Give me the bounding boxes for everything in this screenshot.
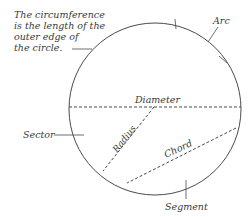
chord-line <box>127 128 236 183</box>
radius-label: Radius <box>110 123 138 155</box>
circle-diagram: The circumference is the length of the o… <box>0 0 250 217</box>
chord-label: Chord <box>162 137 194 160</box>
circumference-note: The circumference is the length of the o… <box>14 9 108 53</box>
arc-label: Arc <box>212 15 230 26</box>
arc-tick-left <box>175 19 176 29</box>
diameter-label: Diameter <box>134 94 181 105</box>
sector-label: Sector <box>23 129 56 140</box>
arc-leader <box>208 27 218 42</box>
segment-label: Segment <box>165 201 208 212</box>
